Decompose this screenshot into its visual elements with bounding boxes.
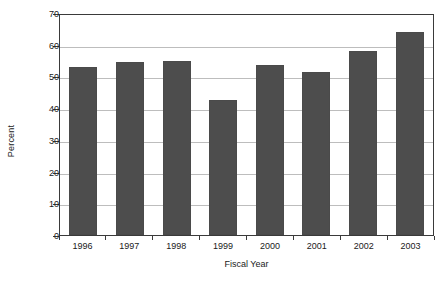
bar-slot bbox=[247, 15, 294, 235]
y-tick-label: 0 bbox=[13, 232, 59, 241]
bar-slot bbox=[200, 15, 247, 235]
bar bbox=[209, 100, 237, 235]
y-tick-label: 60 bbox=[13, 42, 59, 51]
x-tick-label: 1998 bbox=[153, 239, 200, 255]
y-tick-label: 40 bbox=[13, 105, 59, 114]
y-axis-ticks: 010203040506070 bbox=[0, 0, 59, 282]
bar-slot bbox=[340, 15, 387, 235]
y-tick-label: 10 bbox=[13, 200, 59, 209]
x-tick-label: 2002 bbox=[340, 239, 387, 255]
bar-slot bbox=[293, 15, 340, 235]
bar bbox=[349, 51, 377, 235]
bar bbox=[116, 62, 144, 235]
bar bbox=[302, 72, 330, 235]
bar bbox=[163, 61, 191, 235]
x-tick-label: 2003 bbox=[387, 239, 434, 255]
bar-slot bbox=[153, 15, 200, 235]
x-tick-label: 1997 bbox=[106, 239, 153, 255]
bar bbox=[396, 32, 424, 235]
x-tick-label: 1996 bbox=[59, 239, 106, 255]
bar-chart-figure: Percent 010203040506070 1996199719981999… bbox=[0, 0, 447, 282]
x-tick-label: 2000 bbox=[247, 239, 294, 255]
x-axis-title: Fiscal Year bbox=[59, 259, 434, 269]
bar-slot bbox=[60, 15, 107, 235]
bar-slot bbox=[386, 15, 433, 235]
y-tick-label: 50 bbox=[13, 73, 59, 82]
y-tick-label: 30 bbox=[13, 137, 59, 146]
x-tick-label: 2001 bbox=[293, 239, 340, 255]
bars-group bbox=[60, 15, 433, 235]
bar bbox=[69, 67, 97, 235]
x-axis-tick-labels: 19961997199819992000200120022003 bbox=[59, 239, 434, 255]
x-tick-label: 1999 bbox=[200, 239, 247, 255]
plot-area bbox=[59, 14, 434, 236]
y-tick-label: 70 bbox=[13, 10, 59, 19]
bar-slot bbox=[107, 15, 154, 235]
bar bbox=[256, 65, 284, 235]
y-tick-label: 20 bbox=[13, 169, 59, 178]
